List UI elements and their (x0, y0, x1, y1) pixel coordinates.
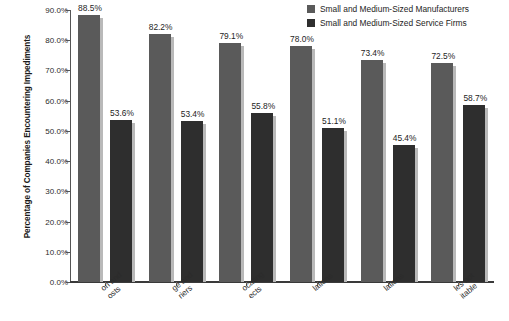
legend-swatch-icon (307, 19, 315, 27)
legend-label: Small and Medium-Sized Service Firms (320, 18, 467, 28)
y-tick-mark (66, 10, 70, 11)
x-axis-tick-labels: on andostsge andriersocatingectslationsl… (70, 286, 494, 321)
bar[interactable]: 53.4% (181, 121, 203, 282)
y-tick-label: 0.0% (24, 278, 68, 287)
bar-body (110, 120, 132, 282)
y-tick-label: 10.0% (24, 247, 68, 256)
chart-legend: Small and Medium-Sized ManufacturersSmal… (307, 3, 509, 31)
y-tick-mark (66, 161, 70, 162)
bar[interactable]: 51.1% (322, 128, 344, 282)
legend-item[interactable]: Small and Medium-Sized Manufacturers (307, 3, 509, 14)
y-axis-line (70, 10, 71, 282)
bar-value-label: 79.1% (219, 31, 243, 41)
y-tick-mark (66, 131, 70, 132)
bar-body (322, 128, 344, 282)
bar-value-label: 88.5% (78, 3, 102, 13)
bar[interactable]: 53.6% (110, 120, 132, 282)
bar-value-label: 73.4% (361, 48, 385, 58)
y-tick-label: 60.0% (24, 96, 68, 105)
bar-body (463, 105, 485, 282)
bar[interactable]: 58.7% (463, 105, 485, 282)
y-tick-label: 40.0% (24, 157, 68, 166)
bar-value-label: 53.4% (181, 109, 205, 119)
y-tick-mark (66, 252, 70, 253)
y-tick-label: 50.0% (24, 126, 68, 135)
plot-area: 88.5%53.6%82.2%53.4%79.1%55.8%78.0%51.1%… (70, 10, 494, 282)
bar-value-label: 55.8% (251, 101, 275, 111)
y-axis-tick-labels: 0.0%10.0%20.0%30.0%40.0%50.0%60.0%70.0%8… (24, 0, 68, 321)
y-tick-label: 70.0% (24, 66, 68, 75)
legend-label: Small and Medium-Sized Manufacturers (320, 4, 469, 14)
bar-value-label: 51.1% (322, 116, 346, 126)
y-tick-mark (66, 70, 70, 71)
bar[interactable]: 88.5% (78, 15, 100, 282)
y-tick-mark (66, 191, 70, 192)
bar[interactable]: 55.8% (251, 113, 273, 282)
bar-value-label: 53.6% (110, 108, 134, 118)
bar-value-label: 58.7% (463, 93, 487, 103)
y-tick-mark (66, 40, 70, 41)
bar-value-label: 72.5% (431, 51, 455, 61)
bar-value-label: 78.0% (290, 34, 314, 44)
bar-chart: Percentage of Companies Encountering Imp… (0, 0, 509, 321)
y-tick-label: 30.0% (24, 187, 68, 196)
bar-group: 88.5%53.6% (78, 10, 132, 282)
bar-value-label: 82.2% (149, 22, 173, 32)
bar-body (78, 15, 100, 282)
y-tick-label: 80.0% (24, 36, 68, 45)
y-tick-label: 20.0% (24, 217, 68, 226)
y-tick-mark (66, 222, 70, 223)
bar-body (181, 121, 203, 282)
legend-swatch-icon (307, 5, 315, 13)
bar-body (251, 113, 273, 282)
bar-value-label: 45.4% (393, 133, 417, 143)
y-tick-mark (66, 282, 70, 283)
legend-item[interactable]: Small and Medium-Sized Service Firms (307, 17, 509, 28)
y-tick-label: 90.0% (24, 6, 68, 15)
y-tick-mark (66, 101, 70, 102)
